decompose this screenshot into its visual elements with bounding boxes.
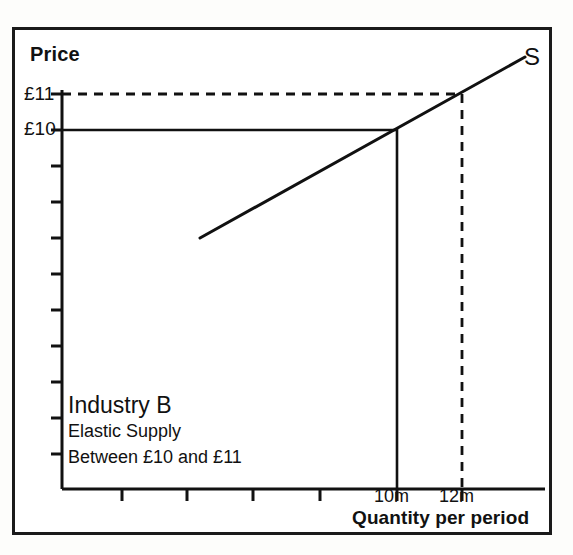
annotation-industry: Industry B bbox=[68, 392, 242, 418]
x-tick-label-12m: 12m bbox=[439, 487, 474, 505]
y-tick-label-10: £10 bbox=[24, 119, 56, 138]
annotation-elasticity: Elastic Supply bbox=[68, 420, 242, 443]
annotation-block: Industry B Elastic Supply Between £10 an… bbox=[68, 392, 242, 469]
chart-page: Price £11 £10 10m 12m Quantity per perio… bbox=[0, 0, 573, 555]
x-tick-label-10m: 10m bbox=[374, 487, 409, 505]
y-tick-label-11: £11 bbox=[24, 84, 54, 103]
price-axis-title: Price bbox=[30, 44, 80, 64]
quantity-axis-title: Quantity per period bbox=[352, 508, 529, 527]
supply-curve-label: S bbox=[524, 45, 540, 69]
annotation-price-range: Between £10 and £11 bbox=[68, 446, 242, 469]
